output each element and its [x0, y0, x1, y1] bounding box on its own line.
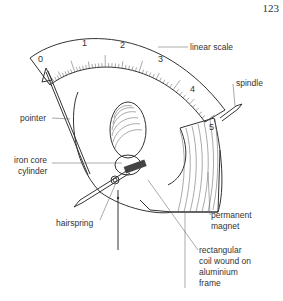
scale-tick: [76, 67, 77, 71]
scale-tick: [122, 61, 123, 68]
label-coil-1: rectangular: [199, 245, 242, 255]
label-magnet-2: magnet: [211, 221, 239, 231]
coil-and-core: [110, 102, 147, 175]
label-coil-3: aluminium: [199, 267, 238, 277]
scale-tick: [156, 73, 159, 79]
scale-tick: [180, 92, 183, 95]
label-iron-core-2: cylinder: [18, 166, 47, 176]
scale-tick: [153, 74, 155, 78]
scale-tick: [183, 95, 186, 98]
scale-tick: [58, 71, 61, 77]
scale-tick: [189, 99, 194, 104]
scale-tick: [149, 72, 151, 76]
scale-tick: [173, 80, 180, 90]
scale-tick: [186, 98, 189, 101]
scale-tick: [92, 64, 93, 68]
label-coil-2: coil wound on: [199, 256, 251, 266]
scale-tick: [163, 80, 165, 83]
scale-tick: [170, 84, 172, 87]
scale-tick: [196, 108, 199, 111]
scale-number-2: 2: [120, 40, 125, 50]
scale-number-5: 5: [209, 122, 214, 132]
scale-tick: [88, 62, 89, 69]
scale-tick: [79, 66, 80, 70]
scale-tick: [139, 61, 143, 72]
scale-tick: [176, 89, 178, 92]
scale-tick: [68, 70, 70, 74]
scale-tick: [160, 78, 162, 82]
label-pointer: pointer: [20, 113, 46, 123]
scale-tick: [57, 76, 59, 79]
label-coil-4: frame: [199, 278, 221, 288]
label-magnet-1: permanent: [211, 210, 252, 220]
scale-tick: [202, 116, 205, 118]
scale-tick: [71, 61, 75, 72]
scale-tick: [65, 72, 67, 76]
scale-number-0: 0: [38, 54, 43, 64]
scale-number-3: 3: [158, 54, 163, 64]
scale-tick: [125, 65, 126, 69]
scale-tick: [166, 82, 168, 85]
scale-tick: [135, 67, 136, 71]
linear-scale: 0 1 2 3 4 5: [30, 38, 225, 132]
scale-tick: [55, 77, 57, 80]
label-hairspring: hairspring: [56, 218, 93, 228]
scale-tick: [132, 66, 133, 70]
scale-tick: [193, 104, 196, 107]
scale-tick: [129, 66, 130, 70]
label-spindle: spindle: [236, 78, 263, 88]
scale-tick: [86, 65, 87, 69]
scale-tick: [199, 112, 202, 115]
label-linear-scale: linear scale: [190, 42, 233, 52]
scale-number-4: 4: [190, 84, 195, 94]
scale-tick: [83, 66, 84, 70]
scale-tick: [142, 70, 143, 74]
scale-tick: [62, 73, 64, 77]
scale-number-1: 1: [82, 38, 87, 48]
scale-tick: [71, 69, 72, 73]
scale-tick: [146, 71, 147, 75]
label-iron-core-1: iron core: [14, 155, 47, 165]
